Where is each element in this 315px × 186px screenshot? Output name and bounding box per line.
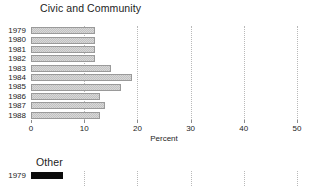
plot-area-other: 1979 — [31, 171, 297, 186]
x-axis-tick-label-0: 0 — [29, 124, 33, 133]
y-axis-tick-label-1988: 1988 — [8, 111, 26, 120]
x-axis-tick-label-30: 30 — [186, 124, 195, 133]
bar-1986 — [31, 93, 100, 100]
bar-1985 — [31, 84, 121, 91]
y-axis-tick-label-1987: 1987 — [8, 101, 26, 110]
y-axis-tick-label-1980: 1980 — [8, 35, 26, 44]
chart-title-other: Other — [36, 156, 63, 168]
y-axis-tick-label-1984: 1984 — [8, 73, 26, 82]
bar-rows-civic: 1979198019811982198319841985198619871988 — [31, 26, 297, 120]
bar-1980 — [31, 37, 95, 44]
y-axis-tick-label-1979: 1979 — [8, 171, 26, 180]
bar-row: 1980 — [31, 35, 297, 44]
bar-1988 — [31, 112, 100, 119]
y-axis-tick-label-1981: 1981 — [8, 45, 26, 54]
bar-rows-other: 1979 — [31, 171, 297, 186]
x-axis-tick-30 — [191, 120, 192, 123]
x-axis-tick-label-40: 40 — [239, 124, 248, 133]
bar-row: 1985 — [31, 82, 297, 91]
gridline-50 — [297, 171, 298, 186]
x-axis-tick-10 — [84, 120, 85, 123]
chart-title-civic-and-community: Civic and Community — [40, 2, 141, 14]
y-axis-tick-label-1983: 1983 — [8, 64, 26, 73]
x-axis-tick-40 — [244, 120, 245, 123]
y-axis-tick-label-1982: 1982 — [8, 54, 26, 63]
x-axis-tick-0 — [31, 120, 32, 123]
chart-panel-other: Other 1979 — [0, 150, 315, 186]
bar-row: 1983 — [31, 64, 297, 73]
x-axis-tick-20 — [137, 120, 138, 123]
bar-1981 — [31, 46, 95, 53]
bar-1979 — [31, 172, 63, 179]
bar-row: 1979 — [31, 171, 297, 180]
bar-row: 1982 — [31, 54, 297, 63]
x-axis-tick-label-20: 20 — [133, 124, 142, 133]
x-axis-civic: Percent 01020304050 — [31, 120, 297, 142]
bar-1984 — [31, 74, 132, 81]
bar-row: 1984 — [31, 73, 297, 82]
bar-1982 — [31, 55, 95, 62]
y-axis-tick-label-1986: 1986 — [8, 92, 26, 101]
bar-1983 — [31, 65, 111, 72]
y-axis-tick-label-1985: 1985 — [8, 82, 26, 91]
gridline-50 — [297, 26, 298, 120]
plot-area-civic: 1979198019811982198319841985198619871988 — [31, 26, 297, 120]
chart-panel-civic-and-community: Civic and Community 19791980198119821983… — [0, 0, 315, 150]
bar-1987 — [31, 102, 105, 109]
x-axis-tick-label-10: 10 — [80, 124, 89, 133]
bar-row: 1988 — [31, 111, 297, 120]
bar-row: 1986 — [31, 92, 297, 101]
x-axis-tick-label-50: 50 — [293, 124, 302, 133]
bar-row: 1987 — [31, 101, 297, 110]
x-axis-tick-50 — [297, 120, 298, 123]
bar-row: 1979 — [31, 26, 297, 35]
bar-1979 — [31, 27, 95, 34]
bar-row: 1981 — [31, 45, 297, 54]
y-axis-tick-label-1979: 1979 — [8, 26, 26, 35]
x-axis-label-percent: Percent — [150, 134, 178, 143]
